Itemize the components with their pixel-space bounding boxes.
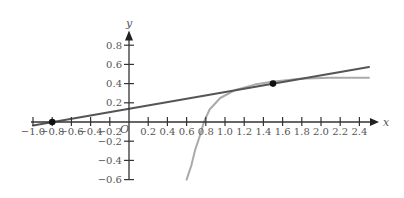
x-tick-label: 2.4 (351, 126, 367, 137)
y-axis-arrow-icon (125, 31, 133, 41)
y-axis-label: y (125, 17, 133, 30)
y-tick-label: 0.6 (106, 59, 122, 70)
x-axis-label: x (383, 116, 390, 129)
y-tick-label: −0.2 (98, 136, 122, 147)
x-axis-arrow-icon (370, 118, 379, 126)
x-tick-label: 0.6 (179, 126, 195, 137)
x-tick-label: 1.8 (294, 126, 310, 137)
x-tick-label: 2.0 (313, 126, 329, 137)
axes: −1.0−0.8−0.6−0.4−0.20.20.40.60.81.01.21.… (21, 17, 390, 186)
y-tick-label: −0.4 (98, 155, 122, 166)
origin-label: O (120, 123, 129, 136)
x-tick-label: 0.2 (140, 126, 156, 137)
series-layer (33, 67, 369, 180)
data-point (270, 80, 277, 87)
y-tick-label: −0.6 (98, 174, 122, 185)
x-tick-label: 0.4 (159, 126, 175, 137)
x-tick-label: 2.2 (332, 126, 348, 137)
tangent-line-series (33, 67, 369, 126)
y-tick-label: 0.2 (106, 97, 122, 108)
x-tick-label: 1.2 (236, 126, 252, 137)
y-tick-label: 0.4 (106, 78, 122, 89)
x-tick-label: 1.0 (217, 126, 233, 137)
data-point (49, 119, 56, 126)
chart-plot: −1.0−0.8−0.6−0.4−0.20.20.40.60.81.01.21.… (0, 0, 404, 198)
y-tick-label: 0.8 (106, 40, 122, 51)
x-tick-label: 1.6 (275, 126, 291, 137)
x-tick-label: 1.4 (255, 126, 271, 137)
x-ticks: −1.0−0.8−0.6−0.4−0.20.20.40.60.81.01.21.… (21, 117, 368, 137)
x-tick-label: 0.8 (198, 126, 214, 137)
